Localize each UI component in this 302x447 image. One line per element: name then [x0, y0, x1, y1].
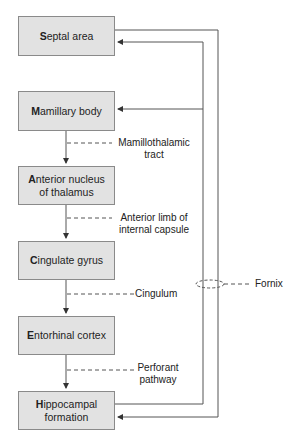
node-septal-area: Septal area [18, 16, 115, 56]
label-anterior-limb: Anterior limb ofinternal capsule [114, 212, 194, 236]
node-mamillary-body: Mamillary body [18, 91, 115, 131]
node-hippocampal-formation: Hippocampalformation [18, 391, 115, 430]
label-cingulum: Cingulum [135, 288, 177, 300]
label-fornix: Fornix [255, 278, 283, 290]
label-perforant-pathway: Perforantpathway [135, 362, 181, 386]
node-cingulate-gyrus: Cingulate gyrus [18, 241, 115, 280]
label-mamillothalamic-tract: Mamillothalamictract [114, 137, 194, 161]
node-anterior-nucleus: Anterior nucleusof thalamus [18, 166, 115, 205]
node-entorhinal-cortex: Entorhinal cortex [18, 316, 115, 355]
